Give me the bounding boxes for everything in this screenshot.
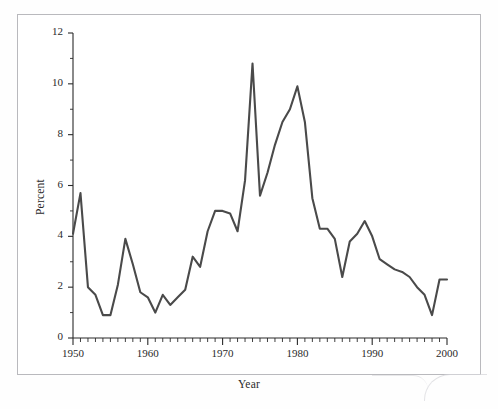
scan-artifact-secondary: [372, 375, 428, 390]
major-tick-marks: [68, 33, 447, 345]
y-tick-label: 0: [37, 330, 63, 342]
y-axis-label: Percent: [34, 179, 46, 215]
x-tick-label: 2000: [423, 347, 471, 359]
data-series-group: [73, 64, 447, 316]
figure-container: 024681012 195019601970198019902000 Perce…: [0, 0, 498, 409]
y-tick-label: 10: [37, 76, 63, 88]
y-tick-label: 12: [37, 25, 63, 37]
x-tick-label: 1960: [124, 347, 172, 359]
y-tick-label: 2: [37, 279, 63, 291]
series-line-0: [73, 64, 447, 316]
x-tick-label: 1950: [49, 347, 97, 359]
x-tick-label: 1990: [348, 347, 396, 359]
y-tick-label: 4: [37, 228, 63, 240]
x-tick-label: 1980: [273, 347, 321, 359]
x-tick-label: 1970: [199, 347, 247, 359]
y-tick-label: 8: [37, 127, 63, 139]
